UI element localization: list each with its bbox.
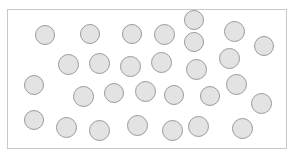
circle-marker [200,86,220,106]
circle-marker [184,10,204,30]
circle-marker [154,24,175,45]
circle-marker [226,74,247,95]
circle-marker [35,25,55,45]
circle-marker [89,53,110,74]
circle-marker [184,32,204,52]
circle-marker [151,52,172,73]
circle-marker [104,83,124,103]
circle-marker [251,93,272,114]
figure-canvas [0,0,294,160]
circle-marker [135,81,156,102]
circle-marker [120,56,141,77]
circle-marker [89,120,110,141]
circle-marker [232,118,253,139]
circle-marker [127,115,148,136]
circle-marker [56,117,77,138]
circle-marker [122,24,142,44]
circle-marker [219,48,240,69]
circle-marker [24,110,44,130]
circle-marker [80,24,100,44]
circle-marker [58,54,79,75]
circle-marker [24,75,44,95]
circle-marker-layer [0,0,294,160]
circle-marker [164,85,184,105]
circle-marker [254,36,274,56]
circle-marker [188,116,209,137]
circle-marker [186,59,207,80]
circle-marker [73,86,94,107]
circle-marker [162,120,183,141]
circle-marker [224,21,245,42]
